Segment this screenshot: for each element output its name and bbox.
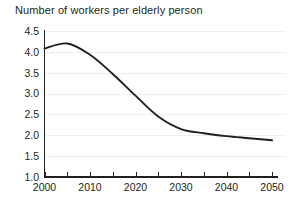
y-axis-tick-label: 4.0	[24, 46, 39, 58]
y-axis-tick-label: 2.0	[24, 129, 39, 141]
y-axis-tick-label: 1.5	[24, 150, 39, 162]
data-series-line	[45, 43, 273, 140]
x-axis-tick-label: 2050	[260, 181, 284, 193]
y-axis-tick-label: 2.5	[24, 108, 39, 120]
y-axis-tick-labels: 1.01.52.02.53.03.54.04.5	[24, 25, 39, 183]
x-axis-tick-label: 2030	[169, 181, 193, 193]
x-axis-tick-label: 2040	[215, 181, 239, 193]
x-axis-tick-labels: 200020102020203020402050	[33, 181, 284, 193]
line-chart-plot: 1.01.52.02.53.03.54.04.5 200020102020203…	[0, 0, 292, 212]
x-axis-tick-label: 2020	[124, 181, 148, 193]
y-axis-tick-label: 3.0	[24, 87, 39, 99]
y-axis-tick-label: 4.5	[24, 25, 39, 37]
x-axis-tick-label: 2010	[78, 181, 102, 193]
x-axis-tick-label: 2000	[33, 181, 57, 193]
chart-figure: Number of workers per elderly person 1.0…	[0, 0, 292, 212]
y-axis-tick-label: 3.5	[24, 67, 39, 79]
